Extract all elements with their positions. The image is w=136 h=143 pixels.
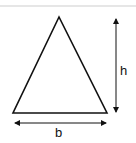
triangle-diagram (0, 0, 136, 143)
triangle-shape (13, 17, 107, 113)
height-label: h (120, 64, 127, 77)
base-label: b (55, 126, 62, 139)
